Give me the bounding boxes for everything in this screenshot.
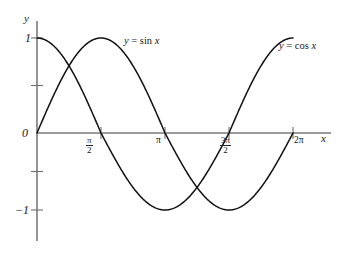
fraction-3pi-over-2: 3π 2 [220, 136, 231, 155]
fraction-numerator: π [86, 136, 93, 145]
y-tick-label-minus-1: −1 [15, 204, 29, 216]
y-axis-label: y [24, 13, 29, 24]
fraction-numerator: 3π [220, 136, 231, 145]
x-tick-label-pi-over-2: π 2 [86, 136, 93, 155]
sine-label-lhs: y [124, 35, 129, 46]
cosine-label-operator: = [286, 40, 292, 51]
x-tick-label-3pi-over-2: 3π 2 [220, 136, 231, 155]
cosine-curve-label: y = cos x [279, 41, 316, 52]
x-tick-label-pi: π [156, 136, 161, 146]
sine-curve [37, 38, 293, 210]
y-tick-label-1: 1 [25, 32, 31, 44]
cosine-label-argument: x [311, 40, 316, 51]
cosine-label-function: cos [295, 40, 309, 51]
x-axis-label: x [321, 133, 326, 144]
sine-curve-label: y = sin x [124, 36, 159, 47]
plot-canvas [0, 0, 346, 253]
fraction-denominator: 2 [86, 145, 93, 155]
fraction-denominator: 2 [220, 145, 231, 155]
x-tick-label-2pi: 2π [294, 136, 304, 146]
sine-label-argument: x [155, 35, 160, 46]
cosine-curve [37, 38, 293, 210]
sine-cosine-figure: y x 0 1 −1 π 2 π 3π 2 2π y = sin x y = c… [0, 0, 346, 253]
cosine-label-lhs: y [279, 40, 284, 51]
fraction-pi-over-2: π 2 [86, 136, 93, 155]
sine-label-operator: = [131, 35, 137, 46]
sine-label-function: sin [140, 35, 152, 46]
origin-label: 0 [22, 127, 28, 139]
